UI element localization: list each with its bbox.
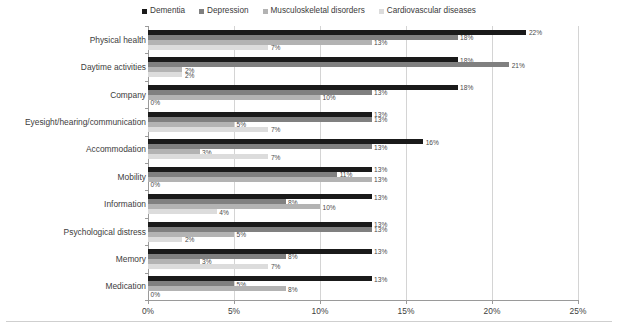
- bar-value-label: 16%: [426, 138, 439, 145]
- y-axis-category-label: Psychological distress: [0, 227, 146, 237]
- bar-value-label: 18%: [460, 34, 473, 41]
- bar-value-label: 2%: [185, 236, 195, 243]
- y-axis-category-label: Company: [0, 90, 146, 100]
- bar: [148, 154, 268, 159]
- x-axis-line: [148, 300, 579, 301]
- y-axis-tick: [145, 108, 148, 109]
- y-axis-tick: [145, 273, 148, 274]
- bar-value-label: 7%: [271, 263, 281, 270]
- bar-value-label: 13%: [374, 39, 387, 46]
- y-axis-tick: [145, 53, 148, 54]
- bar: [148, 286, 286, 291]
- bar-value-label: 21%: [512, 61, 525, 68]
- y-axis-tick: [145, 136, 148, 137]
- y-axis-category-label: Eyesight/hearing/communication: [0, 117, 146, 127]
- x-gridline: [578, 26, 579, 300]
- legend-swatch-icon: [379, 9, 384, 14]
- x-axis-tick: [320, 300, 321, 304]
- bar-value-label: 18%: [460, 84, 473, 91]
- bar-value-label: 13%: [374, 166, 387, 173]
- legend-swatch-icon: [263, 9, 268, 14]
- x-axis-tick-label: 20%: [484, 306, 501, 316]
- plot-area: 22%18%13%7%18%21%2%2%18%13%10%0%13%13%5%…: [148, 26, 578, 300]
- x-axis-tick: [148, 300, 149, 304]
- bar-value-label: 13%: [374, 275, 387, 282]
- y-axis-tick: [145, 190, 148, 191]
- bar: [148, 237, 182, 242]
- y-axis-tick: [145, 81, 148, 82]
- y-axis-category-label: Mobility: [0, 172, 146, 182]
- bar-value-label: 0%: [151, 181, 161, 188]
- bar-value-label: 13%: [374, 176, 387, 183]
- legend-label: Musculoskeletal disorders: [271, 6, 365, 16]
- bar: [148, 177, 372, 182]
- x-gridline: [320, 26, 321, 300]
- x-axis-tick: [578, 300, 579, 304]
- y-axis-tick: [145, 163, 148, 164]
- bar-value-label: 7%: [271, 153, 281, 160]
- x-axis-tick-label: 25%: [570, 306, 587, 316]
- bar-value-label: 8%: [288, 285, 298, 292]
- y-axis-tick: [145, 26, 148, 27]
- bar-value-label: 13%: [374, 143, 387, 150]
- bar-value-label: 13%: [374, 89, 387, 96]
- bar-value-label: 4%: [219, 208, 229, 215]
- legend-item-0[interactable]: Dementia: [142, 6, 185, 16]
- x-axis-tick-label: 15%: [398, 306, 415, 316]
- x-axis-tick: [406, 300, 407, 304]
- bar: [148, 95, 320, 100]
- legend-swatch-icon: [199, 9, 204, 14]
- footer-divider: [6, 321, 612, 322]
- bar-value-label: 13%: [374, 193, 387, 200]
- bar-value-label: 13%: [374, 248, 387, 255]
- legend-item-1[interactable]: Depression: [199, 6, 248, 16]
- x-gridline: [234, 26, 235, 300]
- legend-label: Cardiovascular diseases: [387, 6, 476, 16]
- y-axis-category-label: Daytime activities: [0, 62, 146, 72]
- legend-label: Depression: [207, 6, 248, 16]
- bar-value-label: 2%: [185, 71, 195, 78]
- y-axis-category-label: Medication: [0, 281, 146, 291]
- legend-item-3[interactable]: Cardiovascular diseases: [379, 6, 476, 16]
- bar-value-label: 10%: [323, 203, 336, 210]
- y-axis-category-label: Information: [0, 199, 146, 209]
- bar: [148, 45, 268, 50]
- x-gridline: [492, 26, 493, 300]
- x-axis-tick-label: 10%: [312, 306, 329, 316]
- bar-value-label: 7%: [271, 126, 281, 133]
- x-axis-tick-label: 5%: [228, 306, 240, 316]
- bar-chart: DementiaDepressionMusculoskeletal disord…: [0, 0, 618, 326]
- y-axis-category-labels: Physical healthDaytime activitiesCompany…: [0, 0, 146, 326]
- bar-value-label: 0%: [151, 99, 161, 106]
- bar: [148, 72, 182, 77]
- y-axis-category-label: Physical health: [0, 35, 146, 45]
- bar: [148, 264, 268, 269]
- bar: [148, 127, 268, 132]
- bar-value-label: 10%: [323, 94, 336, 101]
- bar-value-label: 8%: [288, 253, 298, 260]
- x-axis-tick: [234, 300, 235, 304]
- bar-value-label: 0%: [151, 290, 161, 297]
- legend-item-2[interactable]: Musculoskeletal disorders: [263, 6, 365, 16]
- bar-value-label: 22%: [529, 29, 542, 36]
- bar: [148, 62, 509, 67]
- y-axis-category-label: Memory: [0, 254, 146, 264]
- x-gridline: [406, 26, 407, 300]
- y-axis-tick: [145, 245, 148, 246]
- bar-value-label: 5%: [237, 231, 247, 238]
- bar-value-label: 13%: [374, 226, 387, 233]
- y-axis-category-label: Accommodation: [0, 144, 146, 154]
- bar-value-label: 13%: [374, 116, 387, 123]
- bar: [148, 209, 217, 214]
- bar-value-label: 7%: [271, 44, 281, 51]
- x-axis-tick-label: 0%: [142, 306, 154, 316]
- x-axis-tick: [492, 300, 493, 304]
- legend-label: Dementia: [150, 6, 185, 16]
- y-axis-tick: [145, 218, 148, 219]
